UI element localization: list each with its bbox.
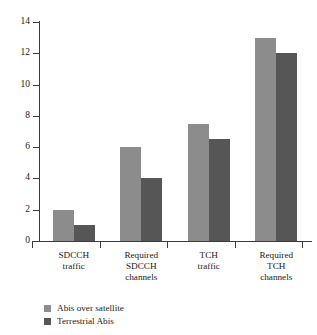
legend-item: Terrestrial Abis [44,316,124,326]
y-tick-mark [33,22,39,23]
y-tick-label: 12 [0,48,30,58]
y-tick-label: 6 [0,142,30,152]
y-tick-mark [33,241,39,242]
legend-label: Terrestrial Abis [57,316,114,326]
bar [74,225,95,241]
y-tick-label: 4 [0,173,30,183]
x-category-label-line: channels [101,272,181,283]
bar [255,38,276,241]
legend-item: Abis over satellite [44,303,124,313]
y-tick-mark [33,53,39,54]
x-axis-line [32,241,312,242]
y-tick-mark [33,116,39,117]
bar [276,53,297,241]
y-tick-label: 10 [0,80,30,90]
y-tick-mark [33,147,39,148]
y-tick-mark [33,178,39,179]
legend-swatch-icon [44,318,51,325]
bar [120,147,141,241]
legend-swatch-icon [44,305,51,312]
y-tick-label: 0 [0,236,30,246]
x-category-label: RequiredTCHchannels [236,250,316,284]
chart-legend: Abis over satelliteTerrestrial Abis [44,303,124,329]
x-tick-mark [32,242,33,248]
x-category-label-line: channels [236,272,316,283]
y-tick-label: 2 [0,205,30,215]
x-tick-mark [100,242,101,248]
bar [141,178,162,241]
y-tick-label: 8 [0,111,30,121]
plot-area [40,22,310,241]
bar [209,139,230,241]
x-tick-mark [302,242,303,248]
legend-label: Abis over satellite [57,303,124,313]
bar-chart: 02468101214 SDCCHtrafficRequiredSDCCHcha… [0,0,317,335]
y-tick-label: 14 [0,17,30,27]
x-category-label-line: TCH [236,261,316,272]
bar [53,210,74,241]
x-tick-mark [167,242,168,248]
x-tick-mark [235,242,236,248]
x-category-label-line: Required [236,250,316,261]
y-tick-mark [33,85,39,86]
bar [188,124,209,241]
y-tick-mark [33,210,39,211]
